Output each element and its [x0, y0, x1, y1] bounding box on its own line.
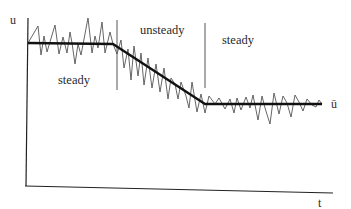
y-axis [26, 18, 28, 186]
region-label-steady-2: steady [222, 34, 254, 47]
region-label-unsteady: unsteady [140, 24, 184, 37]
y-axis-label: u [10, 14, 16, 26]
region-label-steady-1: steady [58, 74, 90, 87]
x-axis-label: t [318, 197, 321, 209]
x-axis [25, 186, 333, 193]
mean-label: ū [331, 98, 337, 110]
